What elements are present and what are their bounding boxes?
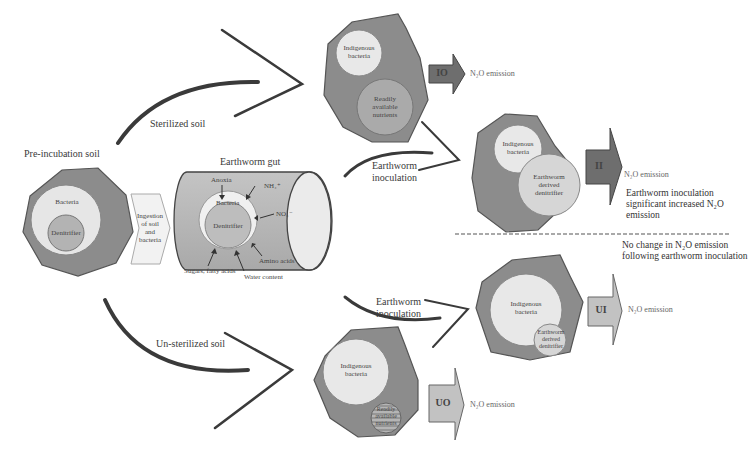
- top-inoculation-label: Earthworm inoculation: [372, 160, 417, 183]
- ii-emission-label: N₂O emission: [624, 170, 669, 179]
- ii-derived-label: Earthworm derived denitrifier: [530, 173, 568, 197]
- ui-emission-label: N₂O emission: [628, 305, 673, 314]
- uo-emission-label: N₂O emission: [470, 400, 515, 409]
- bottom-inoculation-label: Earthworm inoculation: [376, 296, 421, 319]
- unsterilized-soil-arrow: [105, 300, 292, 428]
- bottom-conclusion: No change in N₂O emission following eart…: [622, 240, 750, 262]
- ui-box-label: UI: [590, 304, 612, 316]
- ui-indigenous-label: Indigenous bacteria: [508, 300, 544, 316]
- no3-label: NO₃⁻: [276, 210, 293, 218]
- diagram-canvas: [0, 0, 753, 457]
- gut-bacteria-label: Bacteria: [216, 199, 239, 207]
- io-nutrients-label: Readily available nutrients: [367, 95, 403, 119]
- sterilized-soil-label: Sterilized soil: [150, 118, 205, 130]
- pre-bacteria-label: Bacteria: [53, 198, 81, 206]
- amino-acids-label: Amino acids: [259, 257, 295, 265]
- io-emission-label: N₂O emission: [470, 69, 515, 78]
- unsterilized-soil-label: Un-sterilized soil: [156, 338, 225, 350]
- earthworm-gut-cylinder: [174, 172, 332, 271]
- pre-incubation-soil-particle: [23, 168, 133, 276]
- water-content-label: Water content: [244, 273, 283, 281]
- sterilized-soil-arrow: [118, 30, 302, 143]
- pre-incubation-label: Pre-incubation soil: [24, 148, 100, 160]
- gut-denitrifier-label: Denitrifier: [210, 222, 246, 230]
- uo-box-label: UO: [432, 397, 454, 409]
- sugars-label: Sugars, fatty acids: [184, 267, 236, 275]
- io-box-label: IO: [431, 67, 453, 79]
- top-conclusion: Earthworm inoculation significant increa…: [626, 188, 751, 221]
- uo-nutrients-label: Readily available nutrients: [369, 406, 403, 427]
- gut-title: Earthworm gut: [220, 156, 280, 168]
- nh4-label: NH₄⁺: [264, 182, 281, 190]
- ingestion-label: Ingestion of soil and bacteria: [133, 212, 167, 244]
- io-indigenous-label: Indigenous bacteria: [341, 44, 377, 60]
- uo-indigenous-label: Indigenous bacteria: [338, 362, 374, 378]
- ii-indigenous-label: Indigenous bacteria: [500, 140, 536, 156]
- anoxia-label: Anoxia: [211, 176, 232, 184]
- ii-box-label: II: [588, 160, 610, 172]
- io-soil-particle: [324, 14, 428, 142]
- pre-denitrifier-label: Denitrifier: [50, 229, 82, 237]
- ui-derived-label: Earthworm derived denitrifier: [533, 329, 569, 350]
